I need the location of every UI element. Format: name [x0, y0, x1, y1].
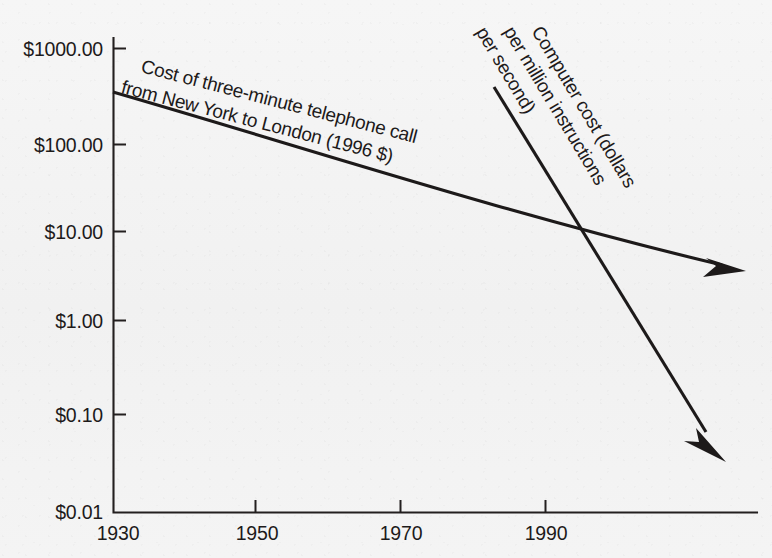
- y-tick-label-1000: $1000.00: [23, 38, 103, 60]
- annotation-computer-cost: Computer cost (dollars per million instr…: [472, 0, 641, 216]
- y-axis-ticks: [114, 49, 127, 415]
- x-tick-label-1970: 1970: [380, 522, 423, 544]
- y-tick-label-100: $100.00: [34, 134, 103, 156]
- y-tick-label-010: $0.10: [55, 404, 103, 426]
- series-arrowhead-computer-cost: [684, 428, 726, 462]
- chart-figure: $1000.00 $100.00 $10.00 $1.00 $0.10 $0.0…: [0, 0, 772, 558]
- x-tick-label-1990: 1990: [525, 522, 568, 544]
- chart-canvas: $1000.00 $100.00 $10.00 $1.00 $0.10 $0.0…: [0, 0, 772, 558]
- annotation-telephone-cost: Cost of three-minute telephone call from…: [119, 52, 419, 171]
- x-tick-label-1930: 1930: [97, 522, 140, 544]
- y-tick-label-10: $10.00: [45, 221, 104, 243]
- y-tick-label-1: $1.00: [55, 310, 103, 332]
- y-tick-label-001: $0.01: [55, 501, 103, 523]
- x-tick-label-1950: 1950: [236, 522, 279, 544]
- x-axis-ticks: [256, 500, 546, 513]
